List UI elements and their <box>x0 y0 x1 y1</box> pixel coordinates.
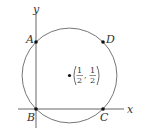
point-b-label: B <box>26 111 35 124</box>
comma: , <box>84 71 87 80</box>
x-numerator: 1 <box>77 66 82 75</box>
point-a-label: A <box>25 33 34 46</box>
circle-diagram: y x A B C D 1 2 , 1 2 <box>0 0 150 134</box>
x-denominator: 2 <box>77 76 82 85</box>
point-d-label: D <box>105 33 115 46</box>
y-axis-label: y <box>32 3 40 16</box>
y-denominator: 2 <box>90 76 95 85</box>
point-d <box>101 40 105 44</box>
left-paren <box>74 66 76 85</box>
right-paren <box>97 66 99 85</box>
center-coordinate-label: 1 2 , 1 2 <box>74 66 99 85</box>
y-numerator: 1 <box>90 66 95 75</box>
point-c-label: C <box>100 111 109 124</box>
center-point <box>68 74 71 77</box>
x-axis-label: x <box>127 103 134 116</box>
point-a <box>34 40 38 44</box>
